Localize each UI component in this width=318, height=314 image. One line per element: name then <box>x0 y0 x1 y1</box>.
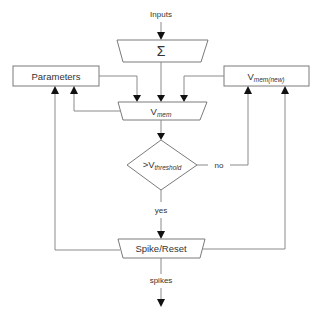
neuron-flowchart: Inputs Σ Parameters Vmem(new) Vmem <box>0 0 318 314</box>
vmem-label-sub: mem <box>157 111 172 118</box>
spike-reset-node: Spike/Reset <box>118 239 205 258</box>
arrowhead-icon <box>281 86 289 94</box>
parameters-to-vmem-line <box>99 76 137 96</box>
spike-reset-to-vmem-new-line <box>203 93 285 249</box>
vmem-new-node: Vmem(new) <box>224 66 309 86</box>
no-line-b <box>230 93 248 165</box>
arrowhead-icon <box>157 299 165 307</box>
arrowhead-icon <box>51 86 59 94</box>
inputs-label: Inputs <box>150 10 172 19</box>
vmem-node: Vmem <box>118 102 207 120</box>
threshold-label-main: >V <box>143 159 156 170</box>
sum-node: Σ <box>117 40 208 62</box>
parameters-label: Parameters <box>31 71 80 82</box>
spike-reset-to-parameters-line <box>55 93 120 250</box>
threshold-node: >Vthreshold <box>127 140 197 190</box>
arrowhead-icon <box>157 95 165 102</box>
no-label: no <box>215 161 224 170</box>
arrowhead-icon <box>133 95 141 102</box>
spike-reset-label: Spike/Reset <box>135 243 187 254</box>
arrowhead-icon <box>70 86 78 94</box>
sum-label: Σ <box>157 43 166 59</box>
threshold-label-sub: threshold <box>155 164 182 171</box>
arrowhead-icon <box>244 86 252 94</box>
arrowhead-icon <box>157 231 165 239</box>
vmem-new-to-vmem-line <box>184 76 224 96</box>
arrowhead-icon <box>180 95 188 102</box>
parameters-node: Parameters <box>13 66 99 86</box>
arrowhead-icon <box>157 32 165 40</box>
yes-label: yes <box>155 206 167 215</box>
vmem-to-parameters-line <box>74 93 120 111</box>
arrowhead-icon <box>157 133 165 140</box>
vmem-new-label-sub: mem(new) <box>254 76 285 84</box>
spikes-label: spikes <box>150 276 173 285</box>
